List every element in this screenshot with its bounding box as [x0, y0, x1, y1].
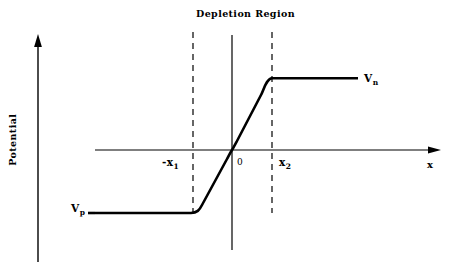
- right-boundary-tick-label: x2: [279, 157, 291, 168]
- n-side-potential-base: V: [364, 72, 372, 84]
- n-side-potential-label: Vn: [364, 73, 378, 84]
- x-axis-arrowhead: [428, 146, 441, 153]
- y-axis-label: Potential: [8, 110, 18, 170]
- potential-axis-group: [34, 34, 42, 262]
- x-axis-group: [95, 146, 441, 153]
- origin-tick-label: 0: [237, 158, 243, 167]
- p-side-potential-base: V: [71, 202, 79, 214]
- left-boundary-tick-base: -x: [162, 156, 173, 168]
- p-side-potential-subscript: p: [80, 208, 86, 217]
- left-boundary-tick-label: -x1: [162, 157, 179, 168]
- potential-profile-curve: [95, 78, 358, 213]
- n-side-potential-subscript: n: [373, 78, 379, 87]
- right-boundary-tick-subscript: 2: [286, 162, 292, 171]
- potential-axis-arrowhead: [34, 34, 42, 47]
- chart-title: Depletion Region: [196, 9, 295, 19]
- x-axis-label: x: [427, 160, 433, 170]
- p-side-potential-label: Vp: [71, 203, 85, 214]
- depletion-region-figure: Depletion Region Potential x 0 -x1 x2 Vn…: [0, 0, 456, 273]
- right-boundary-tick-base: x: [279, 156, 286, 168]
- left-boundary-tick-subscript: 1: [174, 162, 180, 171]
- diagram-canvas: [0, 0, 456, 273]
